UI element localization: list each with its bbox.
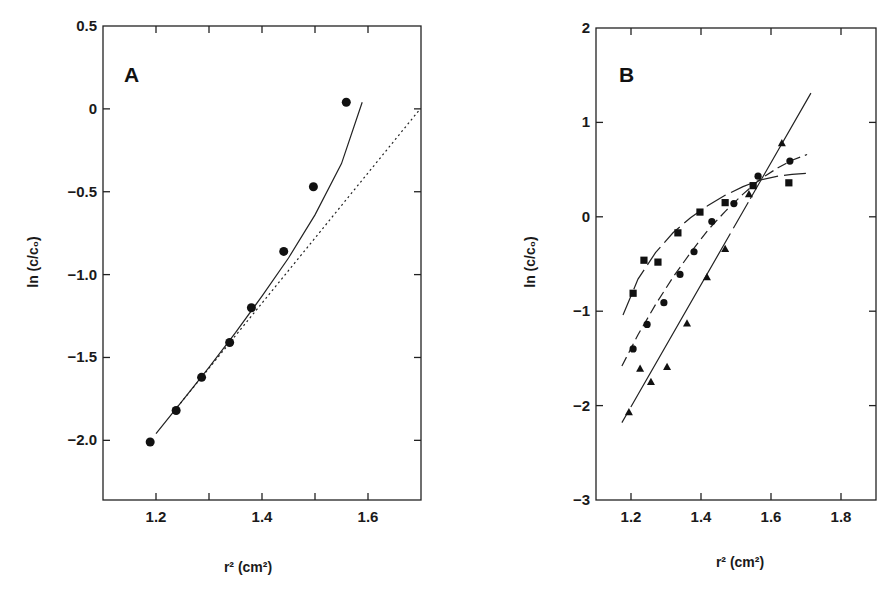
triangle-marker bbox=[636, 365, 644, 372]
x-tick-label: 1.2 bbox=[621, 508, 642, 525]
panel-a-y-axis-title: ln (c/c₀) bbox=[25, 236, 41, 287]
circle-marker bbox=[225, 338, 234, 347]
y-tick-label: 2 bbox=[582, 19, 590, 36]
panel-b-y-axis-title: ln (c/c₀) bbox=[522, 236, 538, 287]
y-tick-label: −1.0 bbox=[67, 266, 97, 283]
linear-reference-line bbox=[177, 111, 419, 408]
square-marker bbox=[750, 182, 757, 189]
x-tick-label: 1.2 bbox=[146, 508, 167, 525]
square-marker bbox=[640, 257, 647, 264]
panel-b-x-axis-title: r² (cm²) bbox=[716, 554, 764, 570]
y-tick-label: −2 bbox=[573, 397, 590, 414]
circle-marker bbox=[342, 98, 351, 107]
fit-curve-line bbox=[156, 102, 362, 434]
circle-marker bbox=[309, 182, 318, 191]
plot-frame bbox=[596, 28, 876, 500]
square-marker bbox=[630, 290, 637, 297]
circle-marker bbox=[146, 437, 155, 446]
y-tick-label: 0 bbox=[89, 100, 97, 117]
x-tick-label: 1.6 bbox=[761, 508, 782, 525]
circle-marker bbox=[730, 200, 737, 207]
circle-marker bbox=[690, 248, 697, 255]
y-tick-label: 0.5 bbox=[76, 17, 97, 34]
squares-fit-line bbox=[623, 173, 807, 315]
x-tick-label: 1.6 bbox=[358, 508, 379, 525]
y-tick-label: 0 bbox=[582, 208, 590, 225]
triangle-marker bbox=[683, 319, 691, 326]
triangle-marker bbox=[625, 408, 633, 415]
triangle-marker bbox=[663, 363, 671, 370]
circle-marker bbox=[754, 173, 761, 180]
circle-marker bbox=[786, 158, 793, 165]
circle-marker bbox=[676, 271, 683, 278]
panel-a-letter: A bbox=[124, 63, 139, 86]
square-marker bbox=[696, 208, 703, 215]
y-tick-label: −1 bbox=[573, 302, 590, 319]
square-marker bbox=[785, 179, 792, 186]
panel-a-chart: 1.21.41.60.50−0.5−1.0−1.5−2.0 bbox=[67, 17, 421, 525]
x-tick-label: 1.4 bbox=[691, 508, 713, 525]
circle-marker bbox=[660, 299, 667, 306]
circle-marker bbox=[708, 218, 715, 225]
panel-b-letter: B bbox=[619, 63, 634, 86]
circle-marker bbox=[644, 321, 651, 328]
circle-marker bbox=[279, 247, 288, 256]
circle-marker bbox=[630, 345, 637, 352]
y-tick-label: −1.5 bbox=[67, 348, 97, 365]
y-tick-label: −0.5 bbox=[67, 183, 97, 200]
x-tick-label: 1.4 bbox=[252, 508, 274, 525]
circle-marker bbox=[172, 406, 181, 415]
square-marker bbox=[674, 229, 681, 236]
circle-marker bbox=[197, 373, 206, 382]
panel-a-x-axis-title: r² (cm²) bbox=[224, 559, 272, 575]
circle-marker bbox=[247, 303, 256, 312]
x-tick-label: 1.8 bbox=[831, 508, 852, 525]
square-marker bbox=[722, 199, 729, 206]
square-marker bbox=[654, 259, 661, 266]
figure: 1.21.41.60.50−0.5−1.0−1.5−2.0 1.21.41.61… bbox=[0, 0, 894, 592]
y-tick-label: 1 bbox=[582, 113, 590, 130]
plot-frame bbox=[103, 26, 421, 500]
triangle-marker bbox=[703, 273, 711, 280]
y-tick-label: −3 bbox=[573, 491, 590, 508]
panel-b-chart: 1.21.41.61.8210−1−2−3 bbox=[573, 19, 876, 525]
y-tick-label: −2.0 bbox=[67, 431, 97, 448]
triangle-marker bbox=[647, 378, 655, 385]
